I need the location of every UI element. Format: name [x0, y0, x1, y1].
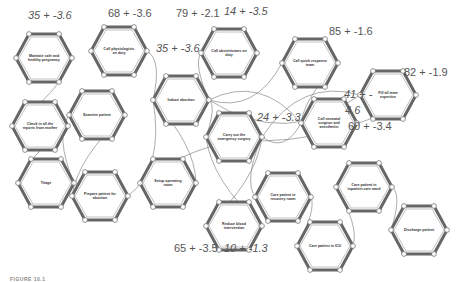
connector-port-icon — [138, 181, 143, 186]
node-label: Care patient in inpatient care ward — [346, 173, 382, 201]
node-label: Examine patient — [79, 101, 115, 129]
connector-port-icon — [164, 122, 169, 127]
connector-port-icon — [247, 200, 252, 205]
connector-port-icon — [280, 61, 285, 66]
connector-port-icon — [308, 220, 313, 225]
connector-port-icon — [204, 224, 209, 229]
connector-port-icon — [217, 111, 222, 116]
connector-port-icon — [207, 98, 212, 103]
connector-port-icon — [113, 170, 118, 175]
connector-port-icon — [308, 268, 313, 273]
node-label: Triage — [28, 169, 64, 197]
connector-port-icon — [293, 37, 298, 42]
connector-port-icon — [23, 148, 28, 153]
node-label: Check in all the reports from mother — [22, 112, 58, 140]
connector-port-icon — [371, 69, 376, 74]
hexagon-node: Call physiologists on duty — [89, 25, 149, 77]
hexagon-node: Check in all the reports from mother — [10, 100, 70, 152]
node-label: Call neonatal surgeon and anesthetist — [311, 109, 347, 137]
node-label: Setup operating room — [150, 169, 186, 197]
connector-port-icon — [204, 135, 209, 140]
node-label: Fill all team expertise — [370, 81, 406, 109]
connector-port-icon — [194, 74, 199, 79]
connector-port-icon — [29, 205, 34, 210]
connector-port-icon — [16, 181, 21, 186]
connector-port-icon — [29, 157, 34, 162]
figure-caption: FIGURE 10.1 — [10, 276, 46, 282]
connector-port-icon — [260, 224, 265, 229]
hexagon-node: Care patient in ICU — [295, 220, 355, 272]
node-label: Prepare patient for abortion — [82, 182, 118, 210]
score-label: 68 + -3.6 — [108, 7, 152, 19]
hexagon-node: Discharge patient — [389, 204, 449, 256]
connector-port-icon — [145, 49, 150, 54]
connector-port-icon — [194, 181, 199, 186]
connector-port-icon — [110, 137, 115, 142]
node-label: Call obstetricians on duty — [211, 39, 247, 67]
score-label: 65 + -3.5 — [174, 242, 218, 254]
connector-port-icon — [247, 159, 252, 164]
connector-port-icon — [312, 145, 317, 150]
node-label: Care patient in ICU — [307, 232, 343, 260]
node-label: Induce abortion — [163, 86, 199, 114]
connector-port-icon — [151, 157, 156, 162]
hexagon-node: Triage — [16, 157, 76, 209]
connector-port-icon — [309, 195, 314, 200]
connector-port-icon — [432, 204, 437, 209]
connector-port-icon — [351, 244, 356, 249]
connector-port-icon — [10, 124, 15, 129]
connector-port-icon — [266, 219, 271, 224]
connector-port-icon — [59, 157, 64, 162]
connector-port-icon — [102, 25, 107, 30]
connector-port-icon — [334, 185, 339, 190]
score-label: 35 + -3.6 — [28, 9, 72, 21]
connector-port-icon — [83, 218, 88, 223]
connector-port-icon — [151, 205, 156, 210]
connector-port-icon — [247, 111, 252, 116]
node-label: Reduce blood intervention — [216, 212, 252, 240]
connector-port-icon — [377, 209, 382, 214]
score-label: 10 + -1.3 — [224, 242, 268, 254]
connector-port-icon — [89, 49, 94, 54]
node-label: Maintain safe and healthy pregnancy — [26, 44, 62, 72]
connector-port-icon — [347, 209, 352, 214]
connector-port-icon — [390, 185, 395, 190]
hexagon-node: Examine patient — [67, 89, 127, 141]
connector-port-icon — [132, 73, 137, 78]
node-label: Carry out the emergency surgery — [216, 123, 252, 151]
hexagon-node: Call quick response team — [280, 37, 340, 89]
connector-port-icon — [181, 205, 186, 210]
connector-port-icon — [212, 27, 217, 32]
connector-port-icon — [23, 100, 28, 105]
score-label: 85 + -1.6 — [329, 25, 373, 37]
connector-port-icon — [402, 252, 407, 257]
connector-port-icon — [260, 135, 265, 140]
score-label: 82 + -1.9 — [404, 66, 448, 78]
connector-port-icon — [110, 89, 115, 94]
connector-port-icon — [80, 137, 85, 142]
hexagon-node: Care patient in recovery room — [253, 171, 313, 223]
connector-port-icon — [102, 73, 107, 78]
connector-port-icon — [401, 117, 406, 122]
connector-port-icon — [253, 195, 258, 200]
connector-port-icon — [194, 122, 199, 127]
score-label: 79 + -2.1 — [176, 7, 220, 19]
hexagon-node: Care patient in inpatient care ward — [334, 161, 394, 213]
flow-diagram: Maintain safe and healthy pregnancyCall … — [0, 0, 457, 282]
connector-port-icon — [242, 75, 247, 80]
connector-port-icon — [342, 145, 347, 150]
connector-port-icon — [323, 85, 328, 90]
connector-port-icon — [414, 93, 419, 98]
connector-port-icon — [181, 157, 186, 162]
connector-port-icon — [389, 228, 394, 233]
connector-port-icon — [377, 161, 382, 166]
connector-port-icon — [59, 205, 64, 210]
score-label: 35 + -3.6 — [156, 42, 200, 54]
connector-port-icon — [338, 220, 343, 225]
node-label: Call quick response team — [292, 49, 328, 77]
connector-port-icon — [212, 75, 217, 80]
connector-port-icon — [70, 56, 75, 61]
hexagon-node: Call obstetricians on duty — [199, 27, 259, 79]
connector-port-icon — [57, 32, 62, 37]
node-label: Discharge patient — [401, 216, 437, 244]
